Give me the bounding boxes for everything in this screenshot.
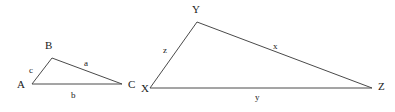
vertex-label-c: C [128, 79, 135, 90]
vertex-label-z: Z [378, 81, 385, 92]
vertex-label-b: B [45, 40, 52, 51]
triangle-xyz-shape [150, 22, 372, 88]
side-label-x: x [273, 42, 278, 51]
triangle-abc-outline [32, 58, 122, 84]
geometry-diagram-canvas [0, 0, 395, 112]
side-label-a: a [84, 59, 88, 68]
side-label-y: y [255, 93, 260, 102]
triangle-xyz-outline [150, 22, 372, 88]
side-label-z: z [163, 46, 167, 55]
side-label-c: c [29, 66, 33, 75]
vertex-label-a: A [17, 79, 25, 90]
side-label-b: b [71, 91, 76, 100]
vertex-label-x: X [141, 83, 149, 94]
triangle-abc-shape [32, 58, 122, 84]
vertex-label-y: Y [192, 4, 200, 15]
